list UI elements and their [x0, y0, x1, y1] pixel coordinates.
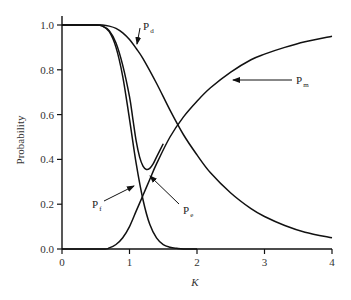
- y-tick-label: 0.0: [40, 243, 54, 255]
- curve-pd: [62, 25, 332, 238]
- y-tick-label: 0.4: [40, 153, 54, 165]
- x-axis-title: K: [190, 276, 199, 288]
- y-tick-label: 0.8: [40, 64, 54, 76]
- curves: [62, 25, 332, 249]
- curve-pm: [62, 36, 332, 249]
- y-tick-label: 1.0: [40, 19, 54, 31]
- x-tick-label: 2: [194, 256, 200, 268]
- axes: 0.00.20.40.60.81.0 01234 K Probability: [14, 16, 335, 288]
- label-pe: Pe: [183, 204, 193, 219]
- label-pf: Pf: [92, 198, 102, 213]
- y-axis-title: Probability: [14, 115, 26, 164]
- x-tick-label: 1: [127, 256, 133, 268]
- curve-pe: [62, 25, 163, 170]
- x-tick-label: 0: [59, 256, 65, 268]
- arrow-pd: [137, 28, 140, 44]
- label-pm: Pm: [296, 74, 309, 89]
- probability-vs-k-chart: 0.00.20.40.60.81.0 01234 K Probability P…: [0, 0, 351, 300]
- x-ticks: 01234: [59, 249, 335, 268]
- x-tick-label: 3: [262, 256, 268, 268]
- y-ticks: 0.00.20.40.60.81.0: [40, 19, 62, 255]
- y-tick-label: 0.6: [40, 109, 54, 121]
- arrow-pe: [150, 176, 179, 204]
- curve-pf: [62, 25, 197, 249]
- x-tick-label: 4: [329, 256, 335, 268]
- arrow-pf: [104, 186, 134, 201]
- y-tick-label: 0.2: [40, 198, 54, 210]
- label-pd: Pd: [143, 20, 154, 35]
